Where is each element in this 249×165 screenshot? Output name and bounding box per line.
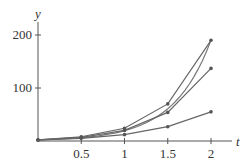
tick-labels: 0.511.52100200ty [13, 6, 241, 161]
x-tick-label: 1 [121, 146, 128, 161]
series-exact-curve [38, 40, 211, 140]
data-point [123, 133, 127, 137]
x-tick-label: 2 [208, 146, 215, 161]
data-lines [36, 39, 213, 142]
y-tick-label: 200 [13, 27, 33, 42]
axes [35, 22, 232, 144]
data-point [166, 125, 170, 129]
data-point [123, 129, 127, 133]
y-axis-label: y [33, 6, 41, 21]
y-tick-label: 100 [13, 80, 33, 95]
data-point [166, 111, 170, 115]
x-tick-label: 0.5 [73, 146, 89, 161]
x-axis-label: t [236, 134, 240, 149]
data-point [209, 67, 213, 71]
data-point [209, 110, 213, 114]
data-point [166, 102, 170, 106]
data-point [36, 138, 40, 142]
x-tick-label: 1.5 [160, 146, 176, 161]
data-point [209, 39, 213, 43]
chart: 0.511.52100200ty [0, 0, 249, 165]
data-point [79, 137, 83, 141]
